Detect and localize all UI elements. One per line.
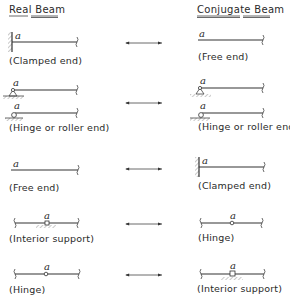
- conjugate-beam-free: a: [198, 28, 264, 45]
- real-beam-clamped: a: [8, 30, 78, 52]
- point-label: a: [230, 210, 236, 221]
- conjugate-caption-1: (Free end): [198, 51, 249, 62]
- interior-support-icon: [45, 221, 49, 225]
- hinge-icon: [230, 221, 234, 225]
- conjugate-caption-5: (Interior support): [197, 283, 282, 294]
- conjugate-beam-hinge: a: [200, 210, 263, 228]
- real-beam-hinge: a: [14, 261, 80, 279]
- real-beam-free: a: [11, 158, 79, 175]
- row-2: a a (Hinge or roller end) a a: [3, 75, 290, 133]
- point-label: a: [200, 75, 206, 86]
- conjugate-beam-clamped: a: [195, 155, 265, 177]
- beam-correspondence-diagram: Real Beam Conjugate Beam a (Clamped end)…: [0, 0, 290, 301]
- real-caption-4: (Interior support): [9, 233, 94, 244]
- real-beam-hinge-end: a: [3, 77, 78, 99]
- conjugate-caption-2: (Hinge or roller end): [198, 121, 290, 132]
- row-4: a (Interior support) a (Hinge): [9, 210, 263, 244]
- point-label: a: [44, 210, 50, 221]
- real-caption-5: (Hinge): [9, 284, 46, 295]
- point-label: a: [14, 100, 20, 111]
- header-conjugate-beam: Conjugate Beam: [197, 4, 284, 18]
- real-caption-1: (Clamped end): [9, 55, 82, 66]
- interior-support-icon: [230, 271, 235, 276]
- point-label: a: [15, 30, 21, 41]
- point-label: a: [199, 28, 205, 39]
- real-beam-roller-end: a: [5, 100, 78, 121]
- header-conjugate-beam-text: Conjugate Beam: [197, 4, 284, 15]
- row-3: a (Free end) a (Clamped end): [9, 155, 271, 193]
- row-1: a (Clamped end) a (Free end): [8, 28, 264, 66]
- conjugate-beam-interior-support: a: [200, 260, 265, 280]
- conjugate-caption-4: (Hinge): [198, 232, 235, 243]
- point-label: a: [13, 77, 19, 88]
- hinge-icon: [44, 272, 48, 276]
- conjugate-beam-roller-end: a: [190, 100, 264, 121]
- real-beam-interior-support: a: [14, 210, 79, 228]
- header-real-beam-text: Real Beam: [9, 4, 65, 15]
- point-label: a: [202, 155, 208, 166]
- point-label: a: [230, 260, 236, 271]
- row-5: a (Hinge) a (Interior support): [9, 260, 282, 295]
- point-label: a: [44, 261, 50, 272]
- real-caption-3: (Free end): [9, 182, 60, 193]
- point-label: a: [200, 100, 206, 111]
- conjugate-caption-3: (Clamped end): [198, 180, 271, 191]
- point-label: a: [13, 158, 19, 169]
- real-caption-2: (Hinge or roller end): [9, 122, 110, 133]
- roller-support-icon: [12, 113, 17, 118]
- conjugate-beam-hinge-end: a: [190, 75, 264, 97]
- header-real-beam: Real Beam: [9, 4, 65, 18]
